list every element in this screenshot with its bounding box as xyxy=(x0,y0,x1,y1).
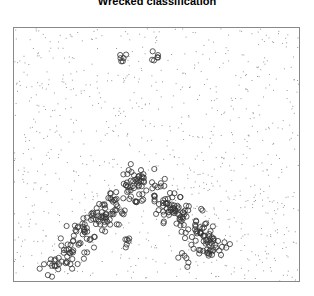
chart-title: Wrecked classification xyxy=(0,0,314,7)
scatter-plot xyxy=(14,28,299,281)
plot-area xyxy=(13,27,300,282)
